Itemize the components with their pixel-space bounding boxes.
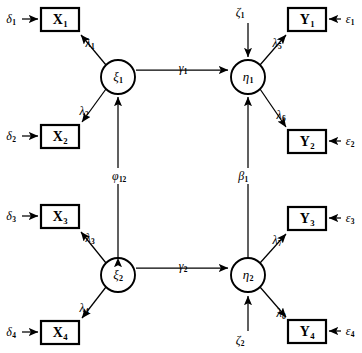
- label-eta2: η2: [243, 268, 253, 281]
- label-Y4: Y4: [300, 325, 314, 339]
- label-epsilon2: ε2: [346, 135, 354, 147]
- label-delta1: δ1: [6, 13, 15, 25]
- label-X3: X3: [53, 210, 67, 224]
- label-lambda3: λ3: [86, 232, 95, 244]
- label-lambda2: λ2: [80, 105, 89, 117]
- label-Y3: Y3: [300, 212, 314, 226]
- label-X2: X2: [53, 130, 67, 144]
- label-epsilon1: ε1: [346, 13, 354, 25]
- label-Y1: Y1: [300, 13, 314, 27]
- label-xi1: ξ1: [113, 70, 123, 83]
- label-phi12: φ12: [109, 168, 129, 184]
- diagram-canvas: [0, 0, 362, 353]
- label-lambda4: λ4: [80, 302, 89, 314]
- label-X1: X1: [53, 13, 67, 27]
- label-gamma2: γ2: [179, 260, 187, 272]
- label-lambda1: λ1: [86, 37, 95, 49]
- label-lambda5: λ5: [273, 37, 282, 49]
- label-lambda6: λ6: [277, 109, 286, 121]
- label-epsilon3: ε3: [346, 212, 354, 224]
- sem-path-diagram: X1 X2 X3 X4 Y1 Y2 Y3 Y4 ξ1 ξ2 η1 η2 δ1 δ…: [0, 0, 362, 353]
- label-lambda7: λ7: [273, 234, 282, 246]
- label-xi2: ξ2: [113, 268, 123, 281]
- label-Y2: Y2: [300, 135, 314, 149]
- label-gamma1: γ1: [179, 62, 187, 74]
- label-X4: X4: [53, 326, 67, 340]
- label-beta1: β1: [235, 168, 251, 184]
- label-epsilon4: ε4: [346, 325, 354, 337]
- label-eta1: η1: [243, 70, 253, 83]
- label-delta2: δ2: [6, 130, 15, 142]
- label-lambda8: λ8: [277, 307, 286, 319]
- label-zeta1: ζ1: [236, 6, 245, 18]
- label-delta3: δ3: [6, 210, 15, 222]
- label-delta4: δ4: [6, 326, 15, 338]
- label-zeta2: ζ2: [236, 334, 245, 346]
